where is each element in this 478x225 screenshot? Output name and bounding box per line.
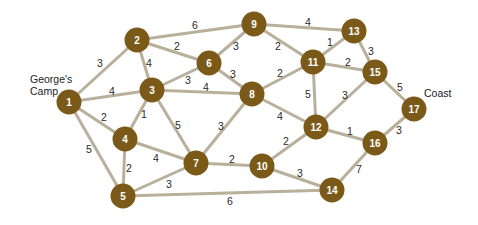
edge-weight-3-8: 4 <box>203 81 209 93</box>
edge-weight-6-9: 3 <box>233 40 239 52</box>
node-label: 7 <box>193 158 199 169</box>
node-15: 15 <box>363 60 388 85</box>
node-label: 2 <box>134 35 140 46</box>
node-10: 10 <box>250 154 275 179</box>
edge-weight-9-11: 2 <box>275 40 281 52</box>
edge-weight-1-4: 2 <box>101 111 107 123</box>
node-11: 11 <box>301 50 326 75</box>
edge-weight-6-8: 3 <box>230 68 236 80</box>
edge-weight-4-7: 4 <box>153 152 159 164</box>
node-label: 16 <box>369 138 381 149</box>
node-8: 8 <box>240 82 265 107</box>
edge-weight-10-12: 2 <box>283 135 289 147</box>
edge-weight-2-6: 2 <box>174 40 180 52</box>
node-3: 3 <box>140 78 165 103</box>
node-label: 10 <box>256 161 268 172</box>
edge-weight-9-13: 4 <box>305 16 311 28</box>
edge-weight-10-14: 3 <box>297 167 303 179</box>
edge-weight-11-15: 2 <box>345 56 351 68</box>
node-4: 4 <box>113 127 138 152</box>
edge-weight-7-8: 3 <box>218 120 224 132</box>
edge-weight-13-15: 3 <box>368 45 374 57</box>
edge-weight-1-3: 4 <box>109 85 115 97</box>
weighted-graph: 3425426135424363332242423512313753 12345… <box>0 0 478 225</box>
edge-weight-12-16: 1 <box>347 125 353 137</box>
node-label: 3 <box>149 85 155 96</box>
node-7: 7 <box>184 151 209 176</box>
edge-weight-5-7: 3 <box>166 178 172 190</box>
node-label: 6 <box>206 58 212 69</box>
node-9: 9 <box>242 12 267 37</box>
edge-3-8 <box>152 90 252 94</box>
node-label: 5 <box>120 191 126 202</box>
node-13: 13 <box>342 19 367 44</box>
edge-weight-3-7: 5 <box>175 119 181 131</box>
node-label: 15 <box>369 67 381 78</box>
edge-weight-8-11: 2 <box>277 67 283 79</box>
edge-1-5 <box>69 102 123 196</box>
node-label: 4 <box>122 134 128 145</box>
node-5: 5 <box>111 184 136 209</box>
edge-weight-11-13: 1 <box>327 36 333 48</box>
node-label: 13 <box>348 26 360 37</box>
edge-weight-2-3: 4 <box>146 57 152 69</box>
edge-layer <box>69 24 414 196</box>
edge-weight-14-16: 7 <box>356 163 362 175</box>
node-1: 1 <box>57 90 82 115</box>
edge-weight-15-17: 5 <box>397 81 403 93</box>
node-label: 12 <box>310 122 322 133</box>
edge-weight-1-5: 5 <box>86 143 92 155</box>
node-6: 6 <box>197 51 222 76</box>
node-2: 2 <box>125 28 150 53</box>
edge-weight-4-5: 2 <box>126 162 132 174</box>
edge-7-8 <box>196 94 252 163</box>
node-12: 12 <box>304 115 329 140</box>
edge-weight-3-6: 3 <box>185 74 191 86</box>
node-14: 14 <box>320 178 345 203</box>
edge-weight-1-2: 3 <box>97 57 103 69</box>
edge-9-13 <box>254 24 354 31</box>
node-17: 17 <box>402 97 427 122</box>
edge-weight-11-12: 5 <box>305 88 311 100</box>
node-label: 17 <box>408 104 420 115</box>
node-label: 14 <box>326 185 338 196</box>
edge-weight-2-9: 6 <box>192 19 198 31</box>
node-label: 8 <box>249 89 255 100</box>
edge-weight-8-12: 4 <box>277 110 283 122</box>
node-label: 9 <box>251 19 257 30</box>
edge-weight-7-10: 2 <box>229 153 235 165</box>
node-label: 1 <box>66 97 72 108</box>
node-16: 16 <box>363 131 388 156</box>
edge-weight-12-15: 3 <box>342 89 348 101</box>
edge-weight-3-4: 1 <box>141 108 147 120</box>
edge-weight-16-17: 3 <box>396 124 402 136</box>
node-label: 11 <box>308 57 319 68</box>
edge-weight-5-14: 6 <box>227 195 233 207</box>
